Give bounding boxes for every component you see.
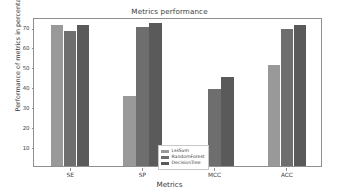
legend-label: DecisionTree xyxy=(172,161,201,166)
y-tick-mark xyxy=(32,48,35,49)
bar xyxy=(221,77,234,166)
y-tick-mark xyxy=(32,108,35,109)
x-tick-label: SE xyxy=(48,172,92,178)
bar xyxy=(136,27,149,166)
x-tick-mark xyxy=(286,168,287,171)
y-tick-mark xyxy=(32,68,35,69)
x-tick-mark xyxy=(214,168,215,171)
x-tick-mark xyxy=(70,168,71,171)
chart-figure: Metrics performance 10203040506070 SESPM… xyxy=(0,0,339,193)
x-tick-label: MCC xyxy=(193,172,237,178)
bar xyxy=(281,29,294,166)
bar xyxy=(64,31,77,166)
y-tick-label: 70 xyxy=(23,25,30,31)
chart-legend: LssSvmRandomForestDecisionTree xyxy=(158,145,209,170)
bar xyxy=(208,89,221,166)
legend-swatch xyxy=(161,150,169,153)
y-tick-mark xyxy=(32,88,35,89)
y-tick-mark xyxy=(32,148,35,149)
y-tick-label: 10 xyxy=(23,145,30,151)
legend-swatch xyxy=(161,156,169,159)
legend-label: RandomForest xyxy=(172,155,205,160)
bar xyxy=(77,25,90,166)
bar xyxy=(51,25,64,166)
legend-label: LssSvm xyxy=(172,149,189,154)
x-tick-label: SP xyxy=(120,172,164,178)
bar xyxy=(294,25,307,166)
x-tick-mark xyxy=(142,168,143,171)
y-tick-label: 30 xyxy=(23,105,30,111)
y-tick-label: 40 xyxy=(23,85,30,91)
plot-area: 10203040506070 SESPMCCACC LssSvmRandomFo… xyxy=(33,18,322,167)
y-axis-label: Performance of metrics in percentage xyxy=(14,0,22,126)
y-tick-mark xyxy=(32,128,35,129)
legend-item: DecisionTree xyxy=(161,161,205,166)
chart-title: Metrics performance xyxy=(0,7,339,16)
bar xyxy=(268,65,281,166)
x-axis-label: Metrics xyxy=(0,180,339,189)
y-tick-label: 60 xyxy=(23,45,30,51)
y-tick-label: 20 xyxy=(23,125,30,131)
y-tick-label: 50 xyxy=(23,65,30,71)
bar xyxy=(123,96,136,166)
x-tick-label: ACC xyxy=(265,172,309,178)
legend-swatch xyxy=(161,162,169,165)
y-tick-mark xyxy=(32,29,35,30)
